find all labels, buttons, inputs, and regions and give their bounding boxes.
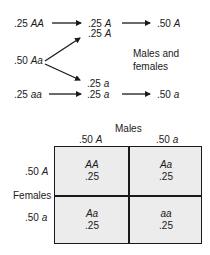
cell-freq: .25 bbox=[129, 171, 203, 183]
cell-genotype: Aa bbox=[55, 196, 129, 220]
col-header-allele: a bbox=[173, 134, 179, 145]
row-header-freq: .50 bbox=[25, 166, 39, 177]
row-header-allele: A bbox=[42, 166, 49, 177]
arrow-Aa-to-a bbox=[45, 64, 80, 80]
cell-AA: AA .25 bbox=[55, 147, 129, 196]
col-header-a: .50 a bbox=[156, 134, 178, 145]
cell-freq: .25 bbox=[55, 220, 129, 232]
col-title: Males bbox=[115, 123, 142, 134]
col-header-freq: .50 bbox=[79, 134, 93, 145]
cell-Aa-top: Aa .25 bbox=[129, 147, 203, 196]
col-header-allele: A bbox=[96, 134, 103, 145]
col-header-A: .50 A bbox=[79, 134, 102, 145]
cell-genotype: aa bbox=[129, 196, 203, 220]
row-header-freq: .50 bbox=[25, 212, 39, 223]
punnett-square: AA .25 Aa .25 Aa .25 aa .25 bbox=[54, 146, 202, 244]
col-header-freq: .50 bbox=[156, 134, 170, 145]
cell-Aa-bottom: Aa .25 bbox=[55, 196, 129, 245]
flow-arrows bbox=[0, 0, 210, 110]
row-title: Females bbox=[13, 190, 51, 201]
row-header-allele: a bbox=[42, 212, 48, 223]
row-header-a: .50 a bbox=[25, 212, 47, 223]
cell-genotype: AA bbox=[55, 147, 129, 171]
arrow-Aa-to-A bbox=[45, 38, 80, 61]
cell-genotype: Aa bbox=[129, 147, 203, 171]
row-header-A: .50 A bbox=[25, 166, 48, 177]
cell-aa: aa .25 bbox=[129, 196, 203, 245]
cell-freq: .25 bbox=[55, 171, 129, 183]
cell-freq: .25 bbox=[129, 220, 203, 232]
